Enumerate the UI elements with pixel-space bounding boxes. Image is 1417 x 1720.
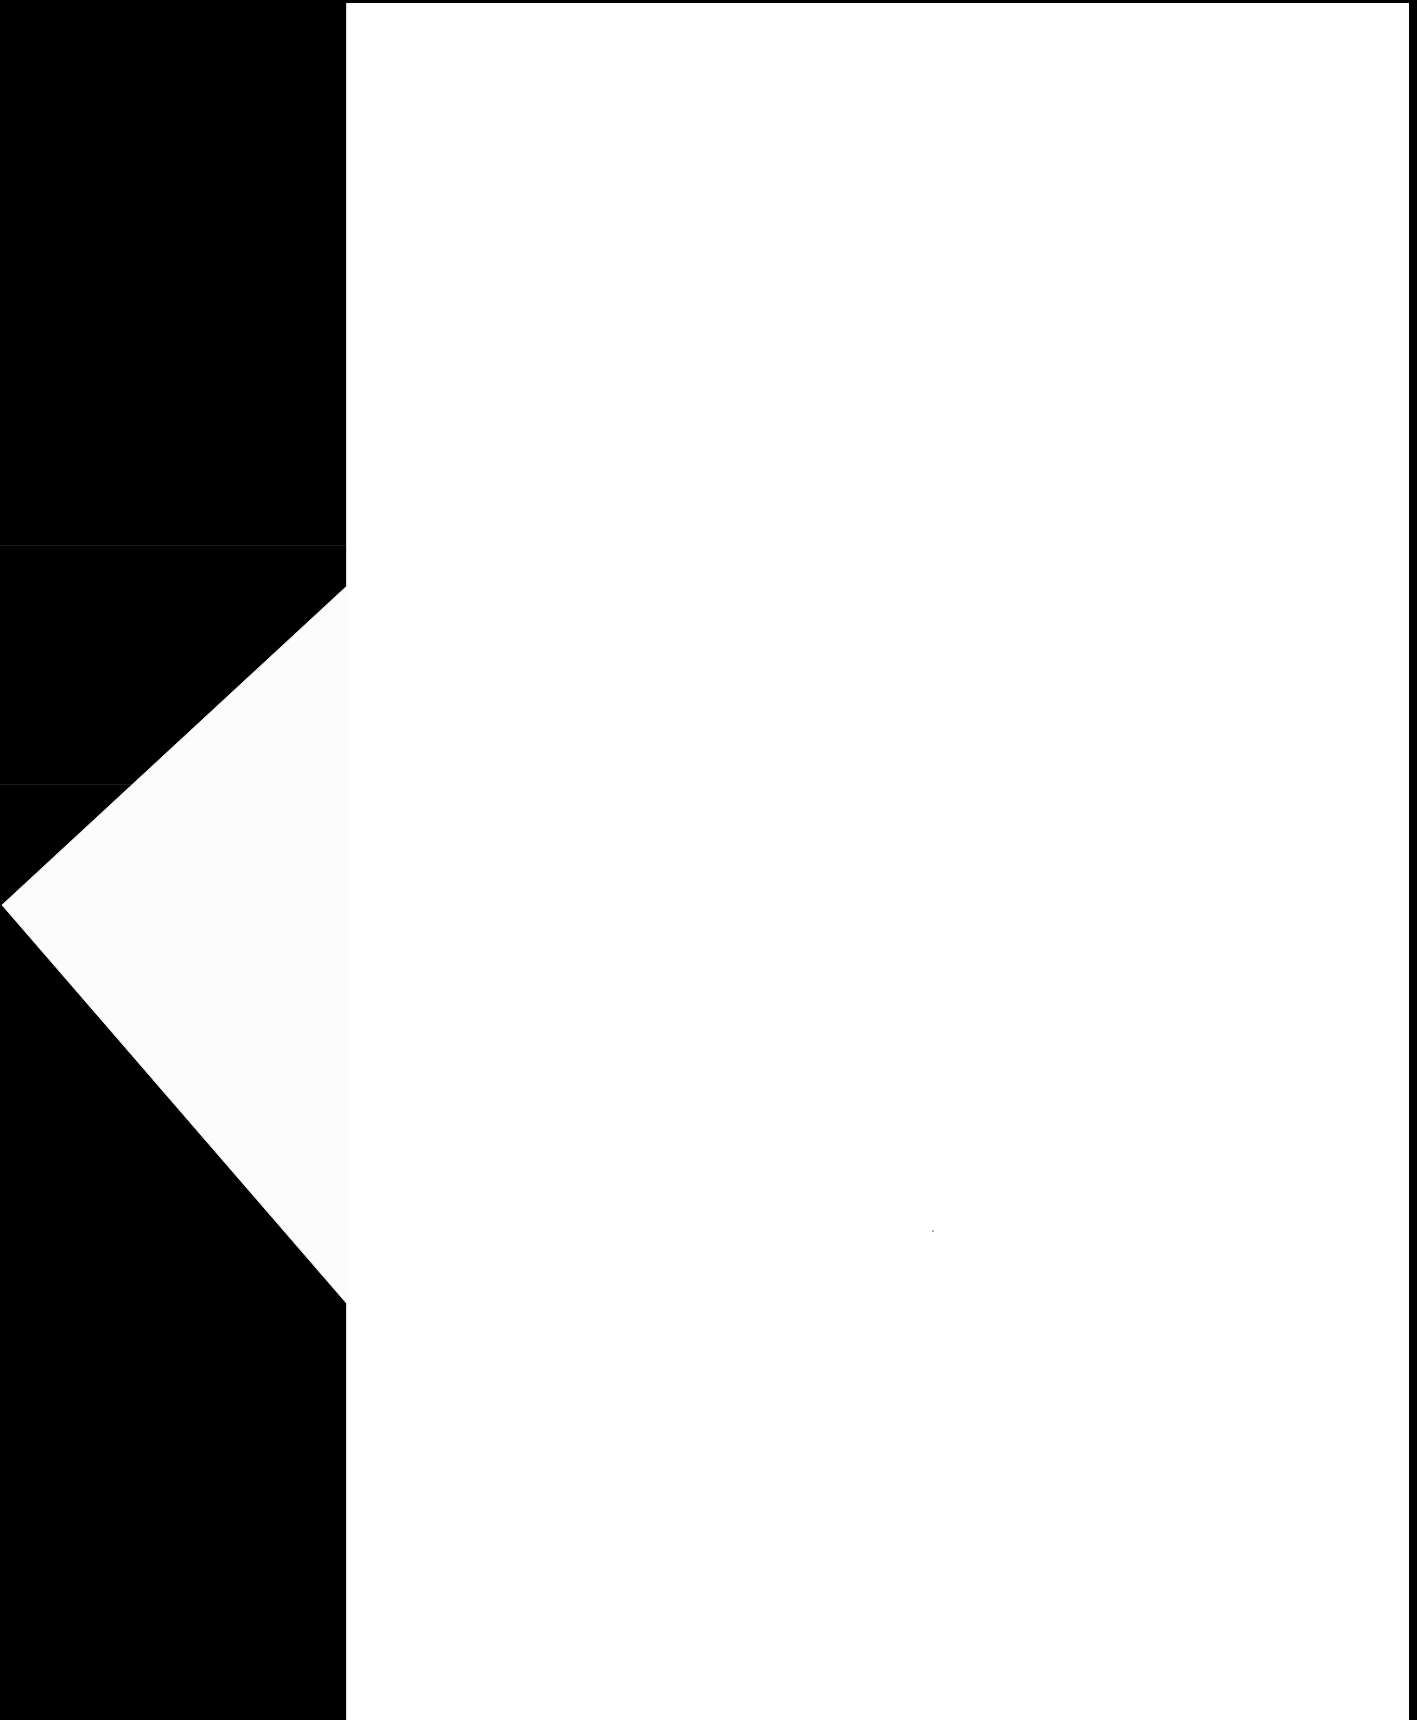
scanner-edge-strip [1409, 0, 1417, 1720]
dust-speck [932, 1230, 934, 1232]
folded-corner-flap [0, 0, 350, 1720]
blank-document-page [346, 3, 1411, 1720]
